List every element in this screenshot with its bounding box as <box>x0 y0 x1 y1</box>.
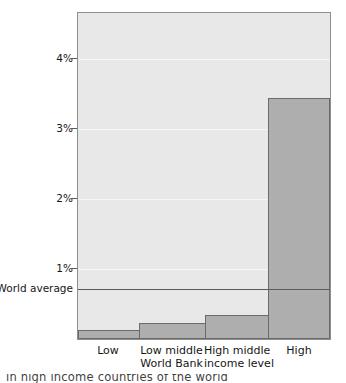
bar-low-middle[interactable] <box>139 323 206 339</box>
xtick-label-high-middle: High middle <box>204 344 268 357</box>
bar-high-middle[interactable] <box>205 315 269 339</box>
x-axis-title-part2: income level <box>204 357 268 370</box>
xtick-label-low: Low <box>77 344 139 357</box>
clipped-caption-text: in high income countries of the world <box>6 374 228 383</box>
xtick-label-high: High <box>267 344 331 357</box>
bar-low[interactable] <box>78 330 140 339</box>
chart-figure: 4% 3% 2% 1% World average Low Low middle… <box>0 0 346 383</box>
bar-high[interactable] <box>268 98 330 339</box>
ytick-mark-3pct <box>71 128 77 129</box>
ytick-mark-2pct <box>71 198 77 199</box>
gridline-4pct <box>78 59 330 60</box>
xtick-label-low-middle: Low middle <box>138 344 205 357</box>
ytick-mark-1pct <box>71 268 77 269</box>
plot-area <box>77 12 331 340</box>
world-average-line <box>78 289 330 290</box>
x-axis-title-part1: World Bank <box>138 357 205 370</box>
ytick-mark-4pct <box>71 58 77 59</box>
clipped-caption: in high income countries of the world <box>0 374 346 383</box>
world-average-label: World average <box>0 283 73 294</box>
